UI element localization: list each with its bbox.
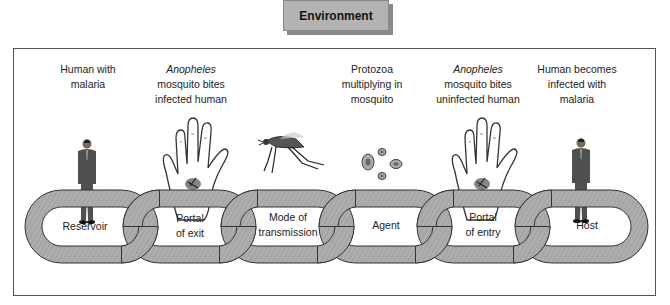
link-label-line: Host bbox=[547, 218, 627, 233]
link-label-line: Portal bbox=[443, 210, 523, 225]
link-label-line: of entry bbox=[443, 225, 523, 240]
link-label-line: of exit bbox=[150, 226, 230, 241]
link-label-reservoir: Reservoir bbox=[45, 219, 125, 234]
link-label-line: Portal bbox=[150, 211, 230, 226]
link-label-line: Agent bbox=[346, 218, 426, 233]
chain-of-infection bbox=[0, 0, 670, 305]
link-label-mode-of-transmission: Mode of transmission bbox=[246, 210, 330, 240]
link-label-line: Reservoir bbox=[45, 219, 125, 234]
link-label-portal-of-exit: Portal of exit bbox=[150, 211, 230, 241]
link-label-line: Mode of bbox=[246, 210, 330, 225]
link-label-agent: Agent bbox=[346, 218, 426, 233]
link-label-line: transmission bbox=[246, 225, 330, 240]
link-label-portal-of-entry: Portal of entry bbox=[443, 210, 523, 240]
link-label-host: Host bbox=[547, 218, 627, 233]
